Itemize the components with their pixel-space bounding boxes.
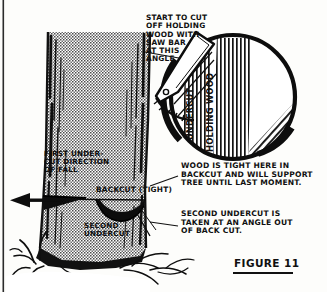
ground-line bbox=[6, 272, 150, 292]
annotation-first-undercut: FIRST UNDER- CUT DIRECTION OF FALL bbox=[44, 150, 109, 174]
figure-illustration: START TO CUT OFF HOLDING WOOD WITH SAW B… bbox=[0, 0, 327, 292]
detail-label-undercut: UNDERCUT bbox=[186, 88, 195, 140]
annotation-second-undercut: SECOND UNDERCUT bbox=[84, 222, 130, 238]
backcut-line bbox=[44, 199, 146, 200]
page-border-left bbox=[3, 0, 5, 292]
annotation-wood-tight: WOOD IS TIGHT HERE IN BACKCUT AND WILL S… bbox=[181, 162, 313, 188]
detail-label-holding-wood: HOLDING WOOD bbox=[206, 73, 215, 152]
annotation-start-cut: START TO CUT OFF HOLDING WOOD WITH SAW B… bbox=[146, 14, 207, 64]
figure-title-underline bbox=[233, 272, 293, 274]
annotation-backcut: BACKCUT (TIGHT) bbox=[96, 186, 172, 194]
annotation-second-undercut-note: SECOND UNDERCUT IS TAKEN AT AN ANGLE OUT… bbox=[181, 210, 293, 236]
figure-title: FIGURE 11 bbox=[234, 258, 299, 270]
